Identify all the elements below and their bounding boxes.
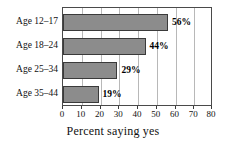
tick-label-20: 20: [95, 109, 104, 120]
tick-label-60: 60: [170, 109, 179, 120]
bar-age-35-44: [63, 86, 99, 103]
x-axis-ticks: 0 10 20 30 40 50 60 70 80: [62, 106, 212, 120]
tick-label-10: 10: [76, 109, 85, 120]
category-label-3: Age 35–44: [16, 88, 58, 99]
tick-label-0: 0: [60, 109, 65, 120]
bar-chart: Age 12–17 Age 18–24 Age 25–34 Age 35–44 …: [0, 0, 226, 145]
plot-area: 56% 44% 29% 19%: [62, 7, 212, 106]
category-label-1: Age 18–24: [16, 40, 58, 51]
value-label-3: 19%: [103, 89, 122, 100]
value-label-0: 56%: [172, 17, 191, 28]
tick-label-50: 50: [151, 109, 160, 120]
bar-age-25-34: [63, 62, 117, 79]
value-label-2: 29%: [121, 65, 140, 76]
gridline-70: [194, 8, 195, 105]
category-axis-labels: Age 12–17 Age 18–24 Age 25–34 Age 35–44: [0, 7, 61, 106]
x-axis-title: Percent saying yes: [0, 124, 226, 139]
category-label-0: Age 12–17: [16, 16, 58, 27]
bar-age-12-17: [63, 14, 168, 31]
bar-age-18-24: [63, 38, 146, 55]
tick-label-70: 70: [189, 109, 198, 120]
tick-label-80: 80: [207, 109, 216, 120]
tick-label-30: 30: [114, 109, 123, 120]
category-label-2: Age 25–34: [16, 64, 58, 75]
tick-label-40: 40: [133, 109, 142, 120]
value-label-1: 44%: [150, 41, 169, 52]
